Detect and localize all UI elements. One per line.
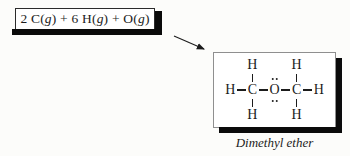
reaction-arrow	[168, 30, 214, 56]
bond-vertical	[252, 74, 253, 82]
atom-hydrogen: H	[314, 82, 324, 98]
bond-horizontal	[281, 89, 290, 90]
bond-vertical	[252, 99, 253, 107]
arrow-icon	[168, 30, 214, 56]
atom-hydrogen: H	[247, 107, 257, 123]
bond-horizontal	[259, 89, 268, 90]
atom-hydrogen: H	[247, 57, 257, 73]
bond-horizontal	[303, 89, 312, 90]
atom-oxygen: O	[269, 82, 279, 98]
oxygen-symbol: O	[269, 82, 279, 97]
electron-dot	[271, 100, 273, 102]
bond-vertical	[296, 99, 297, 107]
structural-formula: H H H C O C	[225, 57, 324, 123]
lone-pair-bottom	[271, 100, 278, 102]
atom-hydrogen: H	[292, 57, 302, 73]
diagram-canvas: 2 C(g) + 6 H(g) + O(g) H H H C	[0, 0, 350, 156]
bond-vertical	[296, 74, 297, 82]
atom-carbon: C	[292, 82, 301, 98]
molecule-panel: H H H C O C	[213, 52, 336, 128]
molecule-caption: Dimethyl ether	[213, 135, 336, 151]
electron-dot	[276, 100, 278, 102]
reactants-equation: 2 C(g) + 6 H(g) + O(g)	[20, 11, 149, 27]
atom-hydrogen: H	[225, 82, 235, 98]
atom-hydrogen: H	[292, 107, 302, 123]
electron-dot	[276, 78, 278, 80]
atom-carbon: C	[248, 82, 257, 98]
lone-pair-top	[271, 78, 278, 80]
bond-horizontal	[237, 89, 246, 90]
electron-dot	[271, 78, 273, 80]
reactants-box: 2 C(g) + 6 H(g) + O(g)	[15, 8, 155, 30]
